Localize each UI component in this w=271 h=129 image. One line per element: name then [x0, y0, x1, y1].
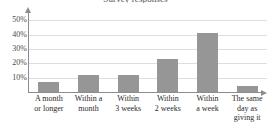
- bar-chart: Survey responses 10%20%30%40%50% A month…: [0, 0, 271, 129]
- x-axis-category-label-line: Within: [148, 94, 188, 104]
- x-axis-category-label-line: month: [69, 104, 109, 114]
- gridline: [29, 20, 267, 21]
- x-axis-category-label-line: Within: [188, 94, 228, 104]
- gridline: [29, 63, 267, 64]
- y-axis-tick-label: 10%: [1, 74, 27, 82]
- x-axis-category-label-line: day as: [227, 104, 267, 114]
- bar: [157, 59, 178, 92]
- x-axis-category-label-line: giving it: [227, 113, 267, 123]
- x-axis-category-labels: A monthor longerWithin amonthWithin3 wee…: [29, 94, 267, 129]
- bar: [118, 75, 139, 92]
- bar: [38, 82, 59, 92]
- y-axis-tick-labels: 10%20%30%40%50%: [0, 13, 27, 92]
- x-axis-category-label: Withina week: [188, 94, 228, 113]
- gridline: [29, 35, 267, 36]
- plot-area: [29, 13, 267, 92]
- gridline: [29, 49, 267, 50]
- chart-title: Survey responses: [0, 0, 271, 3]
- x-axis-category-label-line: Within: [108, 94, 148, 104]
- x-axis-category-label-line: Within a: [69, 94, 109, 104]
- x-axis-category-label: A monthor longer: [29, 94, 69, 113]
- y-axis-arrow-icon: [25, 7, 31, 13]
- y-axis-tick-label: 30%: [1, 45, 27, 53]
- x-axis-category-label: Within amonth: [69, 94, 109, 113]
- bar: [197, 33, 218, 92]
- x-axis-category-label: Within3 weeks: [108, 94, 148, 113]
- x-axis-line: [28, 92, 262, 93]
- bar: [78, 75, 99, 92]
- x-axis-category-label-line: The same: [227, 94, 267, 104]
- x-axis-category-label-line: 3 weeks: [108, 104, 148, 114]
- x-axis-category-label: The sameday asgiving it: [227, 94, 267, 123]
- y-axis-line: [28, 11, 29, 93]
- x-axis-category-label: Within2 weeks: [148, 94, 188, 113]
- gridline: [29, 78, 267, 79]
- x-axis-category-label-line: A month: [29, 94, 69, 104]
- x-axis-category-label-line: or longer: [29, 104, 69, 114]
- y-axis-tick-label: 20%: [1, 59, 27, 67]
- x-axis-category-label-line: a week: [188, 104, 228, 114]
- y-axis-tick-label: 50%: [1, 16, 27, 24]
- x-axis-category-label-line: 2 weeks: [148, 104, 188, 114]
- y-axis-tick-label: 40%: [1, 31, 27, 39]
